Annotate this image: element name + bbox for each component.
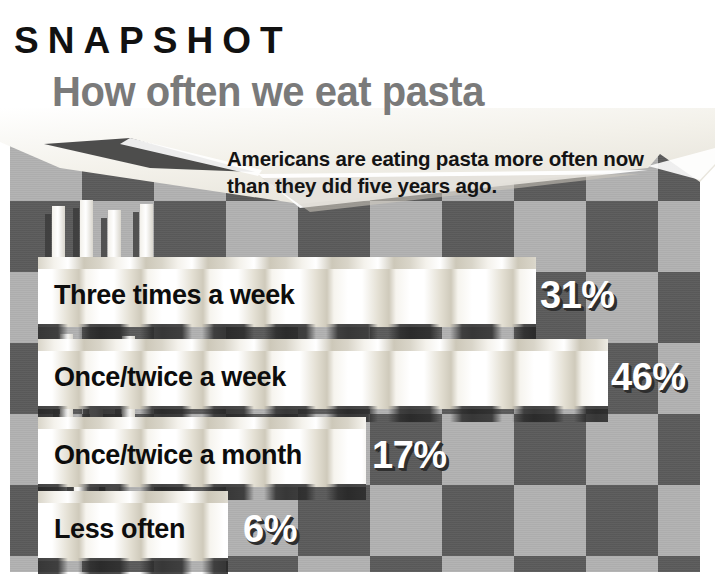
bar-category-label: Once/twice a week xyxy=(54,362,286,393)
bar-value-label: 17% xyxy=(372,434,447,477)
bar-category-label: Less often xyxy=(54,514,185,545)
bar-row: Once/twice a month xyxy=(38,423,366,487)
noodle-bar-top-edge xyxy=(38,257,536,269)
noodle-bar-top-edge xyxy=(38,339,608,351)
bar-row: Once/twice a week xyxy=(38,345,608,409)
bar-value-label: 31% xyxy=(540,274,615,317)
bar-value-label: 46% xyxy=(611,356,686,399)
bar-row: Less often xyxy=(38,497,228,561)
noodle-bar-top-edge xyxy=(38,491,228,503)
bar-value-label: 6% xyxy=(243,508,297,551)
bar-category-label: Once/twice a month xyxy=(54,440,302,471)
noodle-bar-top-edge xyxy=(38,417,366,429)
bar-category-label: Three times a week xyxy=(54,280,294,311)
bar-row: Three times a week xyxy=(38,263,536,327)
snapshot-infographic: SNAPSHOT How often we eat pasta xyxy=(0,0,715,587)
page-title: How often we eat pasta xyxy=(52,70,484,113)
noodle-bar-shadow xyxy=(38,324,536,340)
kicker-label: SNAPSHOT xyxy=(14,22,292,59)
subtitle-text: Americans are eating pasta more often no… xyxy=(227,145,677,200)
noodle-bar-shadow xyxy=(38,558,228,574)
